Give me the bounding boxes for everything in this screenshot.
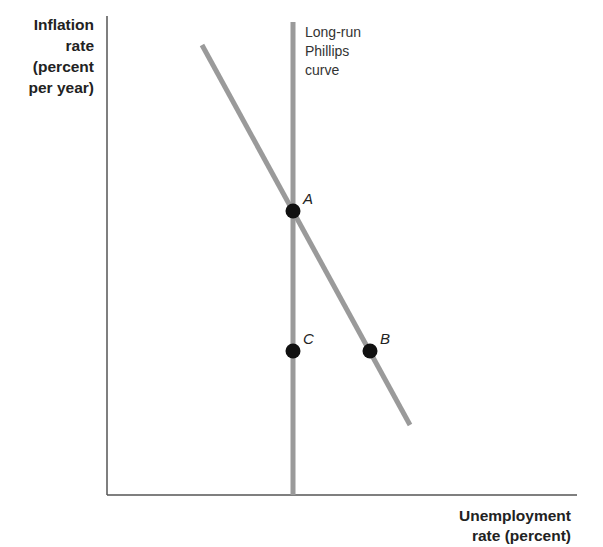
point-b-dot [363,344,378,359]
y-axis-label-line: Inflation [0,14,94,35]
lrpc-label-line: Long-run [305,23,361,42]
x-axis-label-line: rate (percent) [459,526,571,546]
lrpc-label-line: curve [305,61,361,80]
y-axis-label-line: (percent [0,56,94,77]
short-run-phillips-curve [202,45,410,425]
point-c-label: C [303,330,314,347]
y-axis-label-line: per year) [0,77,94,98]
point-a-label: A [303,190,313,207]
x-axis-label-line: Unemployment [459,506,571,526]
x-axis-label: Unemployment rate (percent) [459,506,571,546]
y-axis-label-line: rate [0,35,94,56]
lrpc-label-line: Phillips [305,42,361,61]
point-a-dot [286,204,301,219]
point-c-dot [286,344,301,359]
y-axis-label: Inflation rate (percent per year) [0,14,94,98]
long-run-phillips-curve-label: Long-run Phillips curve [305,23,361,80]
point-b-label: B [380,330,390,347]
